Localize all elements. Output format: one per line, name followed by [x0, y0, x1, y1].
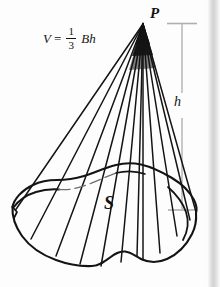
- apex-ink-cluster: [129, 22, 156, 70]
- ruling-line: [16, 24, 144, 210]
- height-guide-group: [167, 24, 197, 211]
- figure-canvas: P h S V = 1 3 Bh: [0, 0, 220, 287]
- volume-formula: V = 1 3 Bh: [43, 26, 96, 51]
- formula-lhs: V: [43, 32, 51, 45]
- base-lower-rim: [12, 207, 196, 266]
- formula-numerator: 1: [68, 26, 76, 38]
- formula-tail: Bh: [81, 32, 95, 45]
- base-region-label-s: S: [104, 194, 114, 212]
- ruling-line: [56, 24, 143, 256]
- formula-fraction: 1 3: [66, 26, 76, 51]
- formula-equals: =: [54, 32, 61, 45]
- formula-denominator: 3: [68, 39, 76, 51]
- cone-diagram-svg: [0, 0, 220, 287]
- base-region-outline: [12, 163, 196, 266]
- cone-ruling-lines: [16, 24, 197, 266]
- page-edge-band: [207, 0, 220, 287]
- height-label-h: h: [174, 95, 181, 109]
- apex-label-p: P: [150, 6, 159, 21]
